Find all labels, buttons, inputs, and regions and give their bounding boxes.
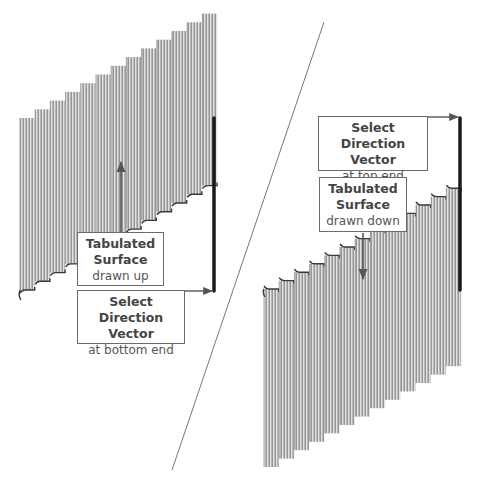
surface-panel <box>264 289 279 467</box>
right-surface-label-title2: Surface <box>320 197 406 213</box>
diagram-canvas <box>0 0 477 483</box>
right-surface-label: Tabulated Surface drawn down <box>319 177 407 232</box>
surface-panel <box>340 247 355 425</box>
surface-panel <box>96 75 111 247</box>
left-surface-label-subtitle: drawn up <box>78 268 163 284</box>
surface-panel <box>310 264 325 442</box>
surface-panel <box>111 66 126 238</box>
left-surface-label-title2: Surface <box>78 252 163 268</box>
surface-panel <box>126 57 141 229</box>
surface-panel <box>81 83 96 255</box>
surface-panel <box>386 222 401 400</box>
left-vector-label-subtitle: at bottom end <box>78 342 184 358</box>
surface-panel <box>157 40 172 212</box>
surface-panel <box>431 197 446 375</box>
right-surface-label-title1: Tabulated <box>320 181 406 197</box>
surface-panel <box>20 118 35 290</box>
right-vector-label: Select Direction Vector at top end <box>318 116 428 171</box>
left-vector-label-title2: Direction Vector <box>78 310 184 342</box>
surface-panel <box>279 281 294 459</box>
surface-panel <box>187 22 202 194</box>
surface-panel <box>325 255 340 433</box>
left-vector-label: Select Direction Vector at bottom end <box>77 290 185 344</box>
left-surface-label-title1: Tabulated <box>78 236 163 252</box>
tabulated-surface-diagram: Tabulated Surface drawn up Select Direct… <box>0 0 477 483</box>
surface-panel <box>416 205 431 383</box>
left-vector-label-title1: Select <box>78 294 184 310</box>
right-surface-label-subtitle: drawn down <box>320 213 406 229</box>
right-vector-label-title1: Select <box>319 120 427 136</box>
surface-panel <box>294 272 309 450</box>
surface-panel <box>50 101 65 273</box>
surface-panel <box>142 48 157 220</box>
surface-panel <box>401 213 416 391</box>
surface-panel <box>172 31 187 203</box>
surface-panel <box>35 109 50 281</box>
right-vector-label-title2: Direction Vector <box>319 136 427 168</box>
left-surface-label: Tabulated Surface drawn up <box>77 232 164 286</box>
surface-panel <box>370 230 385 408</box>
